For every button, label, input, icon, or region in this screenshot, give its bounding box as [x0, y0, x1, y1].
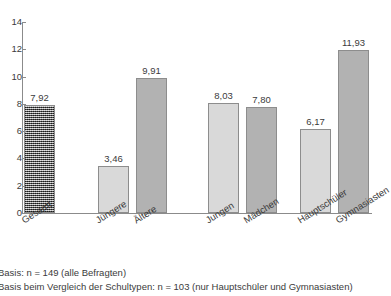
bar-jungen[interactable] — [208, 103, 239, 213]
y-tick-14 — [22, 22, 26, 23]
bar-value-label: 7,80 — [252, 95, 271, 105]
y-tick-label-4: 4 — [4, 153, 22, 163]
y-tick-12 — [22, 49, 26, 50]
y-tick-6 — [22, 131, 26, 132]
bar-group: 6,17 — [300, 21, 331, 213]
bar-value-label: 6,17 — [306, 117, 325, 127]
footnote-basis-schultypen: Basis beim Vergleich der Schultypen: n =… — [0, 280, 389, 294]
bar-value-label: 11,93 — [342, 38, 365, 48]
bar-group: 7,80 — [246, 21, 277, 213]
y-tick-4 — [22, 158, 26, 159]
y-tick-10 — [22, 77, 26, 78]
y-axis-ticks: 02468101214 — [0, 0, 22, 296]
y-tick-label-12: 12 — [4, 44, 22, 54]
y-tick-label-8: 8 — [4, 99, 22, 109]
y-tick-label-10: 10 — [4, 72, 22, 82]
bar-gesamt[interactable] — [24, 105, 55, 213]
bar-value-label: 8,03 — [214, 91, 233, 101]
bar-value-label: 7,92 — [30, 93, 49, 103]
y-tick-label-14: 14 — [4, 17, 22, 27]
bar-value-label: 9,91 — [142, 66, 161, 76]
y-tick-label-6: 6 — [4, 126, 22, 136]
bar-group: 9,91 — [136, 21, 167, 213]
bar-group: 3,46 — [98, 21, 129, 213]
bar-group: 8,03 — [208, 21, 239, 213]
y-tick-2 — [22, 186, 26, 187]
y-tick-label-2: 2 — [4, 181, 22, 191]
y-tick-8 — [22, 104, 26, 105]
bar-group: 7,92 — [24, 21, 55, 213]
y-tick-0 — [22, 213, 26, 214]
bar-group: 11,93 — [338, 21, 369, 213]
bar-value-label: 3,46 — [104, 154, 123, 164]
bar-ältere[interactable] — [136, 78, 167, 213]
footnote-basis: Basis: n = 149 (alle Befragten) — [0, 266, 389, 280]
footnotes: Basis: n = 149 (alle Befragten) Basis be… — [0, 266, 389, 294]
